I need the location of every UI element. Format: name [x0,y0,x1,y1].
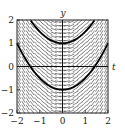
slope-segment [51,110,57,112]
slope-segment [68,103,74,105]
slope-segment [68,99,74,101]
slope-segment [39,98,44,102]
slope-segment [39,49,44,53]
slope-segment [39,57,44,61]
slope-segment [68,54,74,56]
slope-field-chart: −2−1012−2−1012 t y [0,0,125,134]
slope-segment [39,90,44,94]
slope-segment [68,76,74,78]
slope-segment [51,28,57,30]
slope-segment [82,98,87,102]
slope-segment [68,21,74,23]
slope-segment [39,94,44,98]
slope-segment [82,46,87,50]
slope-segment [68,110,74,112]
slope-segment [51,21,57,23]
slope-segment [39,38,44,42]
slope-segment [51,80,57,82]
x-tick-label: 2 [105,116,111,126]
x-tick-label: 1 [82,116,88,126]
slope-segment [68,80,74,82]
slope-segment [39,105,44,109]
slope-segment [51,58,57,60]
x-axis-label: t [112,62,116,72]
slope-segment [82,72,87,76]
slope-segment [51,76,57,78]
slope-segment [82,105,87,109]
slope-segment [82,53,87,57]
slope-segment [82,94,87,98]
slope-segment [51,50,57,52]
slope-segment [51,73,57,75]
slope-segment [68,106,74,108]
slope-segment [51,69,57,71]
slope-segment [51,84,57,86]
slope-segment [68,73,74,75]
slope-segment [82,49,87,53]
slope-segment [51,91,57,93]
y-tick-label: −1 [1,85,14,95]
slope-segment [68,43,74,45]
slope-segment [68,58,74,60]
slope-segment [39,101,44,105]
slope-segment [39,83,44,87]
slope-segment [82,90,87,94]
slope-segment [82,87,87,91]
slope-segment [51,95,57,97]
slope-segment [68,95,74,97]
y-tick-label: 0 [8,62,14,72]
slope-segment [39,72,44,76]
slope-segment [51,32,57,34]
slope-segment [82,68,87,72]
slope-segment [68,24,74,26]
slope-segment [68,84,74,86]
slope-segment [51,24,57,26]
slope-segment [68,47,74,49]
slope-segment [39,87,44,91]
y-tick-label: 2 [8,15,14,25]
slope-segment [39,53,44,57]
slope-segment [68,50,74,52]
slope-segment [39,46,44,50]
slope-segment [82,42,87,46]
slope-segment [82,23,87,27]
slope-segment [51,62,57,64]
slope-segment [51,43,57,45]
slope-segment [68,28,74,30]
x-tick-label: −1 [33,116,46,126]
slope-segment [51,47,57,49]
slope-segment [39,68,44,72]
slope-segment [51,106,57,108]
slope-segment [68,91,74,93]
y-tick-label: −2 [1,108,14,118]
y-axis-label: y [60,8,67,18]
slope-segment [68,32,74,34]
slope-segment [82,57,87,61]
slope-segment [51,54,57,56]
slope-segment [39,42,44,46]
slope-segment [51,36,57,38]
slope-segment [39,61,44,65]
x-tick-label: 0 [60,116,66,126]
slope-segment [51,99,57,101]
slope-segment [82,101,87,105]
slope-segment [82,83,87,87]
slope-segment [68,36,74,38]
slope-segment [82,61,87,65]
y-tick-label: 1 [8,38,14,48]
slope-segment [68,62,74,64]
slope-segment [51,103,57,105]
slope-segment [39,23,44,27]
slope-segment [68,69,74,71]
slope-segment [82,38,87,42]
